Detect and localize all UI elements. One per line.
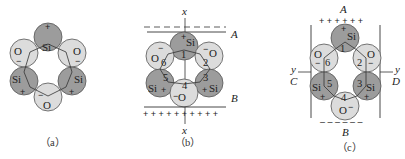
number-3: 3 bbox=[357, 78, 362, 89]
plate-b-label: B bbox=[231, 92, 238, 104]
charge-o-upper-left: − bbox=[16, 56, 21, 66]
label-si-top: Si bbox=[42, 41, 51, 53]
panel-b: x x A + Si 1 − O 6 − O 2 5 Si + 3 + Si 4… bbox=[143, 5, 238, 148]
number-4: 4 bbox=[341, 92, 347, 103]
plate-b-charges: + + + + + + + + + + bbox=[143, 109, 218, 119]
charge-o-2: − bbox=[203, 44, 208, 54]
plate-a-label: A bbox=[230, 28, 238, 40]
number-5: 5 bbox=[163, 72, 168, 83]
label-si-1: Si bbox=[347, 30, 356, 42]
y-axis-label-right: y bbox=[394, 63, 400, 75]
label-si-lower-left: Si bbox=[12, 73, 21, 85]
number-1: 1 bbox=[340, 43, 345, 54]
x-axis-label-bottom: x bbox=[181, 124, 187, 136]
charge-o-6: − bbox=[315, 58, 320, 68]
label-si-5: Si bbox=[148, 82, 157, 94]
label-o-6: O bbox=[151, 52, 159, 64]
panel-c: A + + + + + + y y C D + Si 1 O − 6 O − 2… bbox=[290, 3, 400, 153]
label-o-4: O bbox=[178, 91, 186, 103]
panel-a: + Si O − O − Si + Si + − O （a） bbox=[10, 22, 86, 148]
charge-si-lower-right: + bbox=[69, 87, 74, 97]
number-4: 4 bbox=[182, 80, 188, 91]
caption-a: （a） bbox=[40, 137, 65, 148]
o-atom-upper-right bbox=[58, 39, 86, 67]
caption-c: （c） bbox=[337, 142, 362, 153]
label-si-1: Si bbox=[186, 36, 195, 48]
charge-si-5: + bbox=[161, 85, 166, 95]
charge-o-2: − bbox=[368, 58, 373, 68]
charge-si-3: + bbox=[364, 92, 369, 102]
label-o-2: O bbox=[209, 47, 217, 59]
number-6: 6 bbox=[325, 57, 330, 68]
number-1: 1 bbox=[181, 49, 186, 60]
number-5: 5 bbox=[327, 78, 332, 89]
charge-si-lower-left: + bbox=[20, 87, 25, 97]
charge-o-upper-right: − bbox=[75, 56, 80, 66]
charge-si-1: + bbox=[341, 24, 346, 34]
label-o-4: O bbox=[339, 104, 347, 116]
label-o-bottom: O bbox=[43, 99, 51, 111]
number-6: 6 bbox=[161, 57, 166, 68]
label-b: B bbox=[342, 126, 349, 138]
charge-si-5: + bbox=[320, 92, 325, 102]
label-a: A bbox=[339, 3, 347, 15]
charge-o-4: − bbox=[348, 102, 353, 112]
charge-si-3: + bbox=[202, 85, 207, 95]
quartz-piezo-figure: + Si O − O − Si + Si + − O （a） x x A + S… bbox=[0, 0, 405, 159]
number-2: 2 bbox=[357, 57, 362, 68]
label-si-lower-right: Si bbox=[74, 73, 83, 85]
y-axis-label-left: y bbox=[290, 63, 296, 75]
caption-b: （b） bbox=[175, 137, 200, 148]
x-axis-label-top: x bbox=[181, 5, 187, 17]
label-si-3: Si bbox=[209, 82, 218, 94]
label-c: C bbox=[290, 75, 298, 87]
label-d: D bbox=[391, 75, 400, 87]
number-2: 2 bbox=[203, 57, 208, 68]
number-3: 3 bbox=[203, 72, 208, 83]
charge-si-top: + bbox=[45, 22, 50, 32]
